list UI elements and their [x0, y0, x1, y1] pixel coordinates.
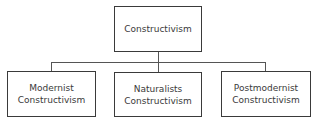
left-connector — [51, 62, 52, 71]
child-node-modernist: Modernist Constructivism — [7, 71, 96, 117]
child-node-label: Postmodernist Constructivism — [232, 82, 299, 106]
middle-connector — [158, 62, 159, 72]
root-node-label: Constructivism — [124, 23, 191, 35]
root-connector — [158, 52, 159, 62]
child-node-naturalists: Naturalists Constructivism — [114, 72, 202, 117]
right-connector — [265, 62, 266, 71]
child-node-postmodernist: Postmodernist Constructivism — [221, 71, 311, 117]
root-node: Constructivism — [114, 6, 202, 52]
child-node-label: Modernist Constructivism — [18, 82, 85, 106]
child-node-label: Naturalists Constructivism — [124, 83, 191, 107]
